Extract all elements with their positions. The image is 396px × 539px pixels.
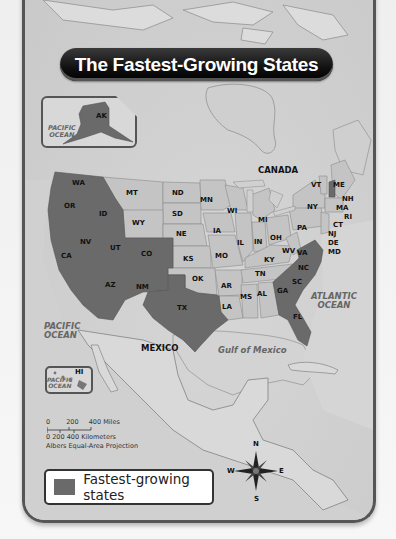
state-label-la: LA <box>222 304 232 311</box>
compass-north-label: N <box>253 440 259 448</box>
scale-projection: Albers Equal-Area Projection <box>46 442 138 450</box>
state-label-il: IL <box>237 240 244 247</box>
compass-east-label: E <box>279 467 284 475</box>
state-label-me: ME <box>333 182 345 189</box>
map-legend: Fastest-growing states <box>44 469 214 505</box>
state-label-wa: WA <box>72 180 85 187</box>
state-label-in: IN <box>254 239 262 246</box>
state-label-mi: MI <box>258 217 268 224</box>
state-label-nj: NJ <box>328 231 336 238</box>
state-label-id: ID <box>99 211 107 218</box>
state-label-wv: WV <box>282 248 295 255</box>
compass-west-label: W <box>227 467 235 475</box>
state-label-sc: SC <box>292 279 302 286</box>
ocean-label-line2: OCEAN <box>48 132 76 139</box>
state-label-nd: ND <box>172 190 184 197</box>
state-label-ma: MA <box>336 205 348 212</box>
state-label-pa: PA <box>297 225 307 232</box>
state-label-nh: NH <box>342 196 354 203</box>
state-label-ks: KS <box>183 256 193 263</box>
ocean-label-line2: OCEAN <box>311 301 357 310</box>
state-label-nc: NC <box>298 265 309 272</box>
scale-kilometers: 0 200 400 Kilometers <box>46 433 116 441</box>
label-atlantic-ocean: ATLANTIC OCEAN <box>311 292 357 310</box>
state-label-wy: WY <box>132 220 145 227</box>
scale-miles-labels: 0 200 400 Miles <box>46 418 120 426</box>
state-label-ri: RI <box>344 214 352 221</box>
state-label-ms: MS <box>240 294 252 301</box>
state-label-oh: OH <box>270 235 282 242</box>
state-label-nv: NV <box>80 239 91 246</box>
label-mexico: MEXICO <box>141 343 178 353</box>
state-label-nm: NM <box>136 284 149 291</box>
alaska-pacific-label: PACIFIC OCEAN <box>48 125 76 139</box>
state-label-co: CO <box>141 251 152 258</box>
compass-star-icon <box>226 440 286 502</box>
state-label-hi: HI <box>75 369 83 376</box>
state-label-md: MD <box>328 249 341 256</box>
state-label-ga: GA <box>277 288 288 295</box>
state-label-sd: SD <box>172 211 183 218</box>
scale-miles-200: 200 <box>66 418 78 426</box>
state-label-al: AL <box>257 291 267 298</box>
state-label-az: AZ <box>105 282 116 289</box>
legend-swatch-fastest-growing <box>54 479 75 495</box>
state-label-tn: TN <box>255 271 266 278</box>
label-pacific-ocean: PACIFIC OCEAN <box>44 322 80 340</box>
alaska-inset <box>41 96 137 148</box>
compass-south-label: S <box>254 495 259 503</box>
map-title-banner: The Fastest-Growing States <box>60 48 333 81</box>
state-label-ca: CA <box>61 253 72 260</box>
state-label-or: OR <box>64 203 75 210</box>
state-label-ar: AR <box>221 283 232 290</box>
state-label-va: VA <box>297 250 307 257</box>
scale-miles-0: 0 <box>46 418 50 426</box>
compass-rose: N S E W <box>226 440 286 502</box>
state-label-vt: VT <box>311 182 321 189</box>
state-label-ny: NY <box>307 204 318 211</box>
arctic-islands <box>43 0 348 44</box>
state-label-ky: KY <box>264 257 275 264</box>
state-label-ak: AK <box>96 113 107 120</box>
hawaii-pacific-label: PACIFIC OCEAN <box>47 377 73 390</box>
ocean-label-line2: OCEAN <box>44 331 80 340</box>
state-label-fl: FL <box>293 314 302 321</box>
state-label-tx: TX <box>177 305 187 312</box>
map-title: The Fastest-Growing States <box>75 54 318 76</box>
label-canada: CANADA <box>258 165 298 175</box>
state-label-mo: MO <box>215 253 228 260</box>
state-label-mn: MN <box>200 197 213 204</box>
state-label-ut: UT <box>110 245 120 252</box>
state-label-wi: WI <box>227 208 237 215</box>
state-label-de: DE <box>328 240 339 247</box>
state-label-ne: NE <box>176 231 187 238</box>
scale-miles-400: 400 Miles <box>89 418 120 426</box>
ocean-label-line2: OCEAN <box>47 383 73 389</box>
state-label-ia: IA <box>213 228 221 235</box>
label-gulf-of-mexico: Gulf of Mexico <box>218 346 287 355</box>
state-label-ok: OK <box>192 276 203 283</box>
state-label-ct: CT <box>333 222 343 229</box>
legend-label: Fastest-growing states <box>83 471 212 503</box>
state-label-mt: MT <box>126 190 138 197</box>
hudson-bay <box>206 84 276 153</box>
